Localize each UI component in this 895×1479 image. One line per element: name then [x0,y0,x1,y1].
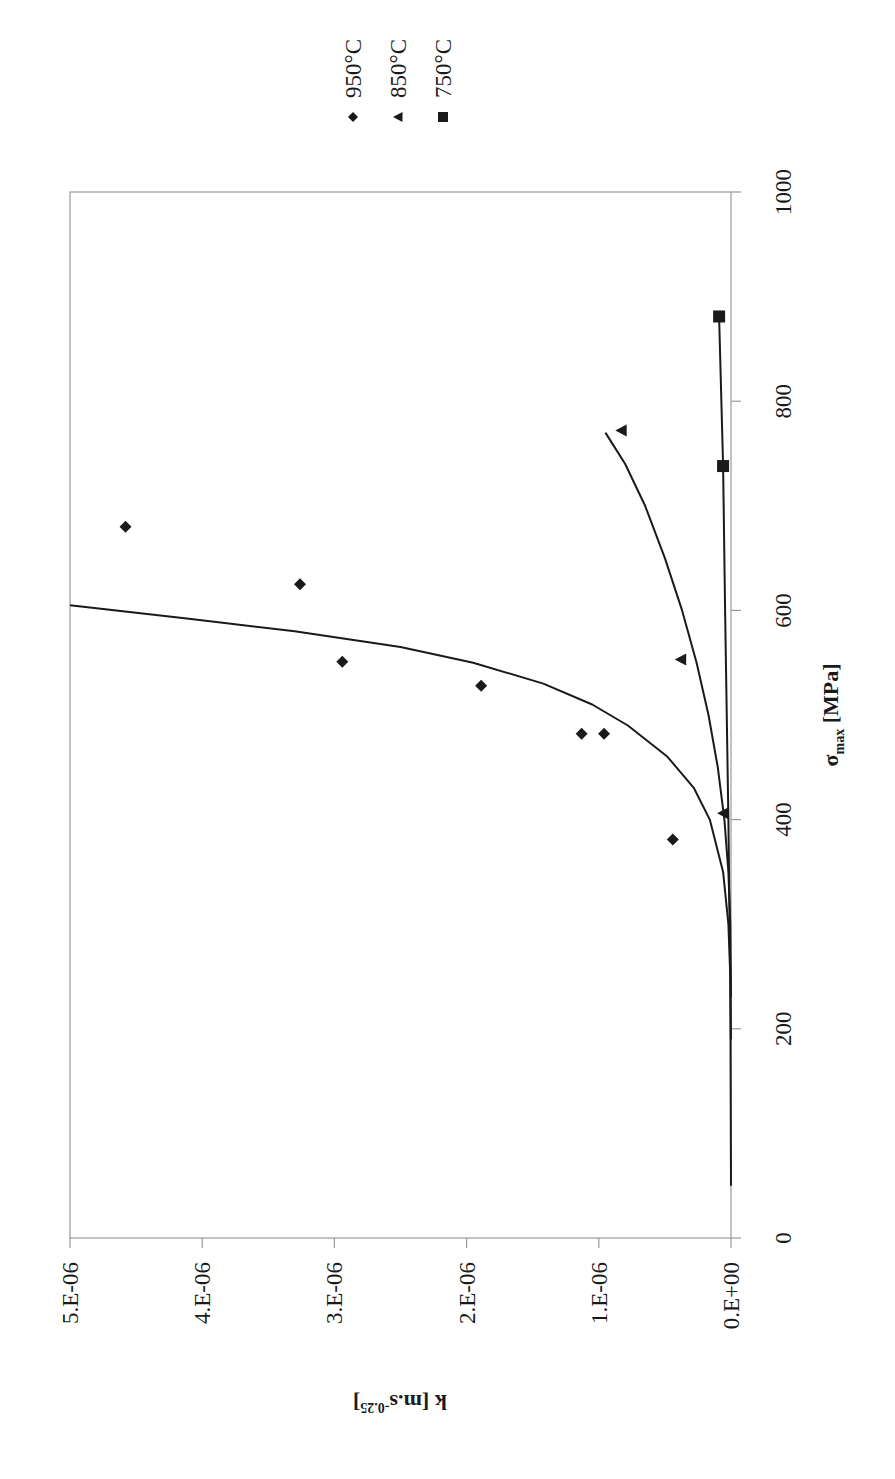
svg-text:σmax [MPa]: σmax [MPa] [818,664,847,767]
sigma-axis-title: σmax [MPa] [818,664,847,767]
square-icon [438,112,448,122]
triangle-marker-icon [615,424,626,436]
fit-curve-750 [719,317,731,1040]
diamond-marker-icon [576,728,588,740]
fit-curves [70,317,731,1186]
legend-label: 850°C [386,39,411,98]
square-marker-icon [717,460,729,472]
k-tick-label: 4.E-06 [190,1262,215,1324]
fit-curve-850 [605,433,731,998]
diamond-marker-icon [294,578,306,590]
diamond-icon [348,112,358,122]
fit-curve-950 [70,605,731,1185]
k-axis-ticks: 0.E+001.E-062.E-063.E-064.E-065.E-06 [58,1238,744,1329]
square-marker-icon [713,310,725,322]
triangle-marker-icon [675,654,686,666]
k-tick-label: 5.E-06 [58,1262,83,1324]
sigma-tick-label: 1000 [771,169,796,215]
legend-label: 950°C [341,39,366,98]
svg-text:0: 0 [771,1232,796,1244]
svg-text:0.E+00: 0.E+00 [719,1262,744,1329]
diamond-marker-icon [598,728,610,740]
sigma-tick-label: 0 [771,1232,796,1244]
data-markers [120,310,730,845]
svg-text:5.E-06: 5.E-06 [58,1262,83,1324]
plot-area-frame [70,192,731,1238]
sigma-tick-label: 200 [771,1012,796,1047]
k-tick-label: 2.E-06 [455,1262,480,1324]
k-tick-label: 3.E-06 [322,1262,347,1324]
svg-text:k [m.s-0.25]: k [m.s-0.25] [353,1390,447,1415]
k-tick-label: 1.E-06 [587,1262,612,1324]
svg-text:1000: 1000 [771,169,796,215]
legend-item-950: 950°C [341,39,366,122]
legend-item-850: 850°C [386,39,411,122]
legend-item-750: 750°C [431,39,456,122]
legend: 950°C850°C750°C [341,39,456,122]
diamond-marker-icon [667,833,679,845]
sigma-tick-label: 600 [771,593,796,628]
k-axis-title: k [m.s-0.25] [353,1390,447,1415]
svg-text:3.E-06: 3.E-06 [322,1262,347,1324]
triangle-icon [393,112,403,122]
k-tick-label: 0.E+00 [719,1262,744,1329]
svg-text:400: 400 [771,802,796,837]
svg-text:800: 800 [771,384,796,419]
sigma-axis-ticks: 02004006008001000 [731,169,796,1244]
diamond-marker-icon [475,680,487,692]
svg-text:600: 600 [771,593,796,628]
sigma-tick-label: 800 [771,384,796,419]
diamond-marker-icon [120,521,132,533]
svg-text:1.E-06: 1.E-06 [587,1262,612,1324]
diamond-marker-icon [336,656,348,668]
rotated-scatter-chart: 02004006008001000 0.E+001.E-062.E-063.E-… [0,0,895,1479]
svg-text:2.E-06: 2.E-06 [455,1262,480,1324]
sigma-tick-label: 400 [771,802,796,837]
svg-text:200: 200 [771,1012,796,1047]
legend-label: 750°C [431,39,456,98]
svg-text:4.E-06: 4.E-06 [190,1262,215,1324]
